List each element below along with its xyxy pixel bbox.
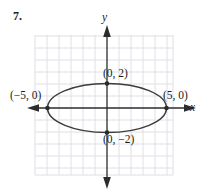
x-axis-label: x	[190, 102, 195, 114]
annotation-point-0-2: (0, 2)	[103, 68, 128, 80]
point-vertex-right	[164, 106, 169, 111]
figure-page: 7.	[0, 0, 207, 193]
grid-lines	[35, 35, 173, 175]
x-axis	[27, 104, 196, 112]
point-vertex-left	[45, 106, 50, 111]
annotation-point-5-0: (5, 0)	[163, 90, 188, 102]
annotation-point-minus5-0: (−5, 0)	[10, 90, 41, 102]
y-axis-label: y	[102, 12, 107, 24]
y-axis	[103, 25, 111, 189]
point-co-vertex-top	[105, 81, 110, 86]
annotation-point-0-minus2: (0, −2)	[103, 134, 134, 146]
